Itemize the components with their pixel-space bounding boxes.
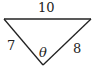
side-left-label: 7 — [7, 38, 15, 53]
side-top-label: 10 — [38, 0, 55, 15]
angle-theta-label: θ — [39, 45, 47, 60]
triangle-diagram: 10 7 8 θ — [0, 0, 97, 70]
side-right — [43, 19, 91, 65]
side-right-label: 8 — [73, 41, 81, 56]
